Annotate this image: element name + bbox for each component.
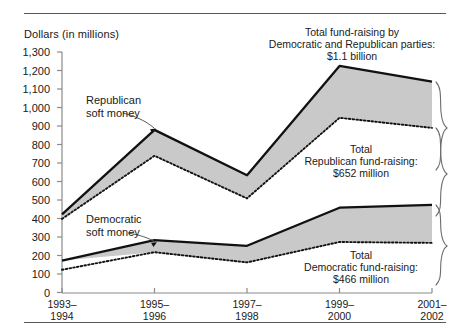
x-tick-label-line: 2002 <box>417 311 446 323</box>
brace-total-combined-icon <box>436 82 447 170</box>
x-axis <box>62 288 432 293</box>
x-tick-label-1993-1994: 1993– 1994 <box>47 299 76 322</box>
annotation-line: $652 million <box>304 167 417 179</box>
x-tick-label-line: 1996 <box>140 311 169 323</box>
annotation-line: Democratic and Republican parties: <box>269 38 435 50</box>
x-tick-label-line: 2001– <box>417 299 446 311</box>
annotation-line: Total fund-raising by <box>269 26 435 38</box>
annotation-line: Democratic <box>86 213 142 226</box>
x-tick-label-line: 1995– <box>140 299 169 311</box>
annotation-line: Total <box>304 249 418 261</box>
annotation-line: Total <box>304 143 417 155</box>
annotation-total-republican: Total Republican fund-raising: $652 mill… <box>304 143 417 179</box>
x-tick-label-1999-2000: 1999– 2000 <box>325 299 354 322</box>
annotation-line: soft money <box>86 107 141 120</box>
x-tick-label-1995-1996: 1995– 1996 <box>140 299 169 322</box>
annotation-total-combined: Total fund-raising by Democratic and Rep… <box>269 26 435 62</box>
x-tick-label-1997-1998: 1997– 1998 <box>232 299 261 322</box>
x-tick-label-line: 1994 <box>47 311 76 323</box>
x-tick-label-line: 1997– <box>232 299 261 311</box>
annotation-republican-soft-money: Republican soft money <box>86 94 141 119</box>
annotation-line: soft money <box>86 226 142 239</box>
x-tick-label-line: 2000 <box>325 311 354 323</box>
annotation-line: Republican fund-raising: <box>304 155 417 167</box>
annotation-democratic-soft-money: Democratic soft money <box>86 213 142 238</box>
annotation-line: $1.1 billion <box>269 50 435 62</box>
y-axis <box>57 52 62 293</box>
brace-total-democratic-icon <box>436 205 447 285</box>
x-tick-label-line: 1993– <box>47 299 76 311</box>
annotation-line: Republican <box>86 94 141 107</box>
x-tick-label-line: 1999– <box>325 299 354 311</box>
annotation-line: $466 million <box>304 273 418 285</box>
x-tick-label-line: 1998 <box>232 311 261 323</box>
figure-fundraising-chart: Dollars (in millions) 1,300 1,200 1,100 … <box>0 0 470 336</box>
annotation-line: Democratic fund-raising: <box>304 261 418 273</box>
annotation-total-democratic: Total Democratic fund-raising: $466 mill… <box>304 249 418 285</box>
x-tick-label-2001-2002: 2001– 2002 <box>417 299 446 322</box>
